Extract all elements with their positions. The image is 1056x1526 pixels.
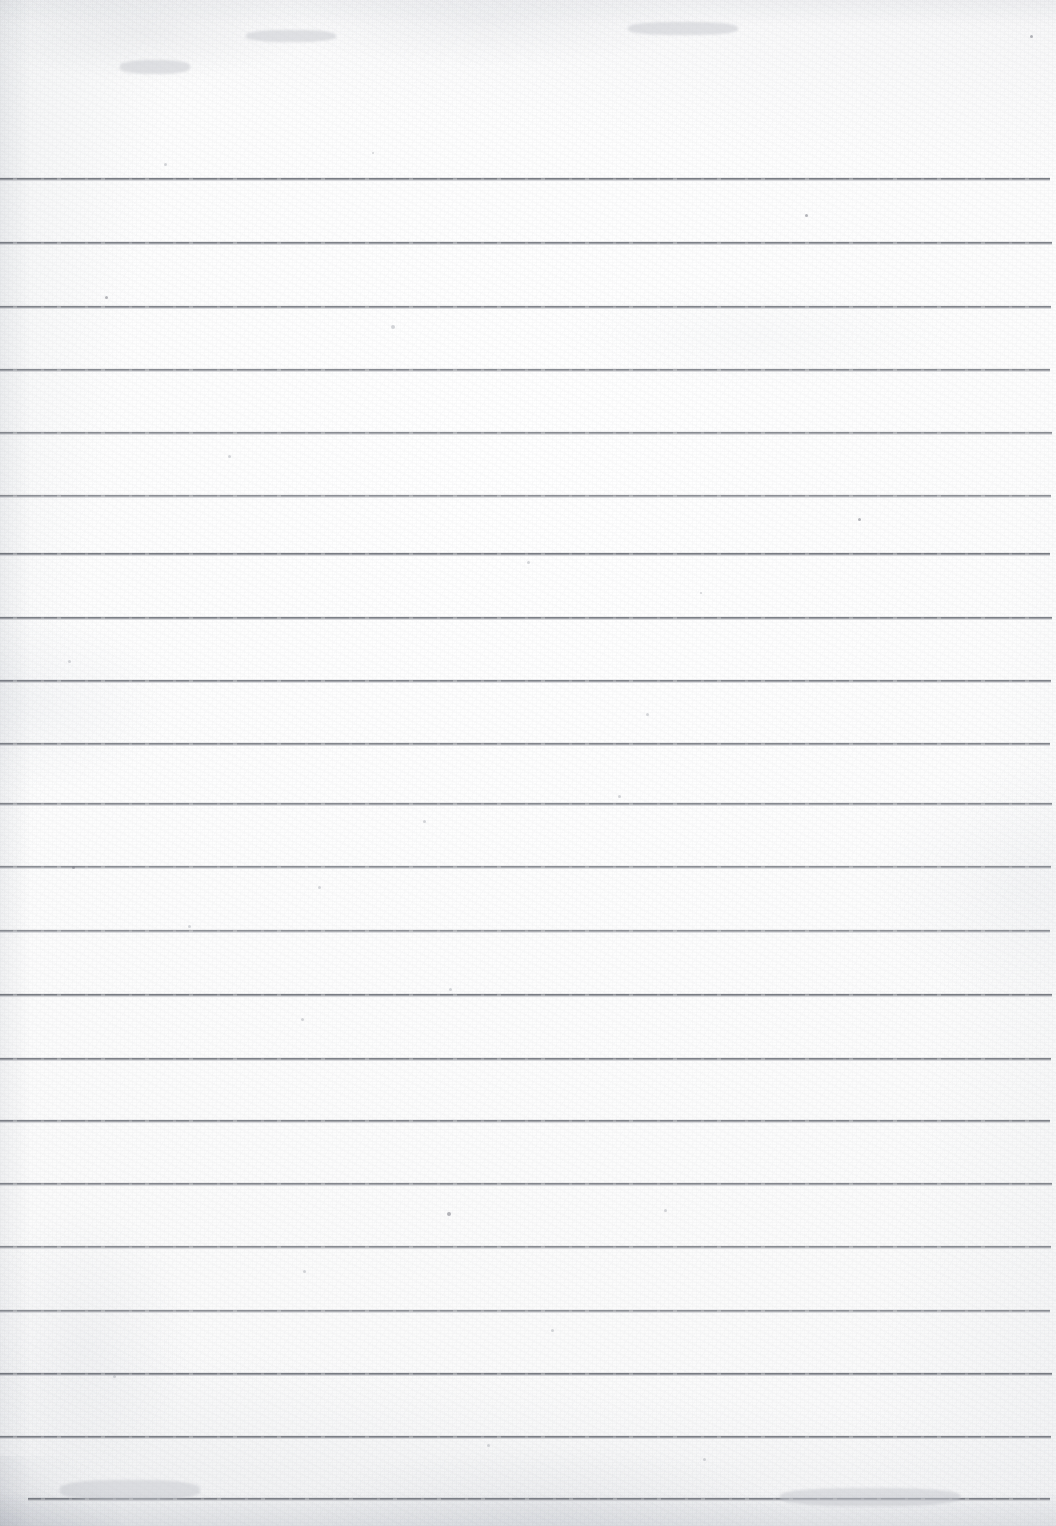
scan-speck — [805, 214, 808, 217]
ruled-line — [0, 1246, 1051, 1248]
ruled-line — [0, 1120, 1050, 1122]
scan-speck — [527, 561, 530, 564]
ruled-line — [0, 617, 1052, 619]
scan-speck — [551, 1329, 554, 1332]
ruled-line — [0, 495, 1051, 497]
ruled-line — [0, 743, 1050, 745]
scan-speck — [105, 296, 108, 299]
ruled-line — [0, 242, 1052, 244]
ruled-line — [0, 1183, 1052, 1185]
scan-speck — [858, 518, 861, 521]
ruled-lines-layer — [0, 0, 1056, 1526]
ruled-line — [0, 994, 1052, 996]
ruled-line — [0, 930, 1050, 932]
ruled-line — [0, 1310, 1050, 1312]
scan-speck — [449, 988, 452, 991]
scan-speck — [113, 1375, 116, 1378]
ruled-line — [0, 866, 1051, 868]
scan-speck — [188, 925, 191, 928]
scan-speck — [318, 886, 321, 889]
scanned-page — [0, 0, 1056, 1526]
scan-speck — [372, 152, 374, 154]
ruled-line — [0, 680, 1051, 682]
scan-speck — [68, 660, 71, 663]
scan-speck — [303, 1270, 306, 1273]
scan-smudge — [246, 30, 336, 42]
scan-speck — [1030, 35, 1033, 38]
scan-speck — [447, 1212, 451, 1216]
page-edge-shadow-left — [0, 0, 30, 1526]
scan-speck — [700, 592, 702, 594]
scan-speck — [487, 1444, 490, 1447]
scan-speck — [664, 1209, 667, 1212]
ruled-line — [0, 369, 1050, 371]
scan-speck — [72, 866, 75, 869]
ruled-line — [0, 1436, 1051, 1438]
scan-speck — [703, 1458, 706, 1461]
scan-speck — [618, 795, 621, 798]
scan-smudge — [120, 60, 190, 74]
ruled-line — [0, 432, 1052, 434]
ruled-line — [0, 1373, 1052, 1375]
ruled-line — [0, 1058, 1051, 1060]
scan-speck — [646, 713, 649, 716]
scan-speck — [301, 1018, 304, 1021]
ruled-line — [0, 803, 1052, 805]
ruled-line — [0, 178, 1050, 180]
page-edge-shadow-bottom — [0, 1492, 1056, 1526]
page-corner-curl — [0, 1456, 120, 1526]
scan-speck — [391, 325, 395, 329]
scan-speck — [228, 455, 231, 458]
scan-speck — [423, 820, 426, 823]
scan-speck — [164, 163, 167, 166]
ruled-line — [0, 306, 1051, 308]
ruled-line — [0, 553, 1050, 555]
page-edge-shadow-top — [0, 0, 1056, 26]
